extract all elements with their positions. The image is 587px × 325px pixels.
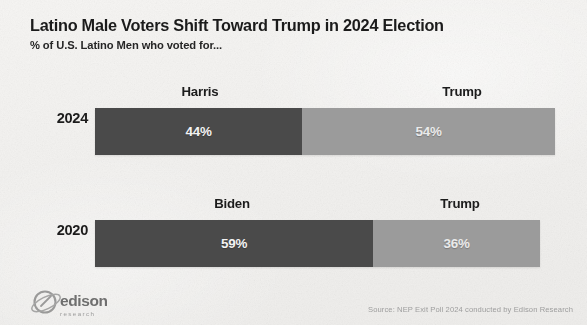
- year-label-2020: 2020: [14, 222, 88, 238]
- year-label-2024: 2024: [14, 110, 88, 126]
- planet-ring-icon: [30, 288, 64, 318]
- logo-text-block: edison research: [60, 288, 108, 317]
- bar-value-harris-2024: 44%: [185, 124, 211, 139]
- page-subtitle: % of U.S. Latino Men who voted for...: [30, 39, 222, 51]
- logo-subtitle: research: [60, 311, 108, 317]
- year-label-wrap-2024: 2024: [8, 84, 88, 132]
- bar-value-trump-2020: 36%: [443, 236, 469, 251]
- chart-page: Latino Male Voters Shift Toward Trump in…: [0, 0, 587, 325]
- segment-label-trump-2024: Trump: [442, 84, 481, 99]
- stacked-bar-2020: 59% 36%: [95, 220, 540, 267]
- bar-segment-harris-2024[interactable]: 44%: [95, 108, 302, 155]
- stacked-bar-2024: 44% 54%: [95, 108, 555, 155]
- bar-segment-trump-2024[interactable]: 54%: [302, 108, 555, 155]
- year-label-wrap-2020: 2020: [8, 196, 88, 244]
- segment-label-biden-2020: Biden: [214, 196, 250, 211]
- bar-segment-trump-2020[interactable]: 36%: [373, 220, 540, 267]
- bar-segment-biden-2020[interactable]: 59%: [95, 220, 373, 267]
- segment-label-harris-2024: Harris: [182, 84, 219, 99]
- edison-research-logo: edison research: [30, 288, 108, 318]
- logo-name: edison: [60, 293, 108, 309]
- page-title: Latino Male Voters Shift Toward Trump in…: [30, 16, 570, 35]
- bar-value-trump-2024: 54%: [415, 124, 441, 139]
- source-note: Source: NEP Exit Poll 2024 conducted by …: [368, 305, 573, 314]
- bar-value-biden-2020: 59%: [221, 236, 247, 251]
- segment-label-trump-2020: Trump: [440, 196, 479, 211]
